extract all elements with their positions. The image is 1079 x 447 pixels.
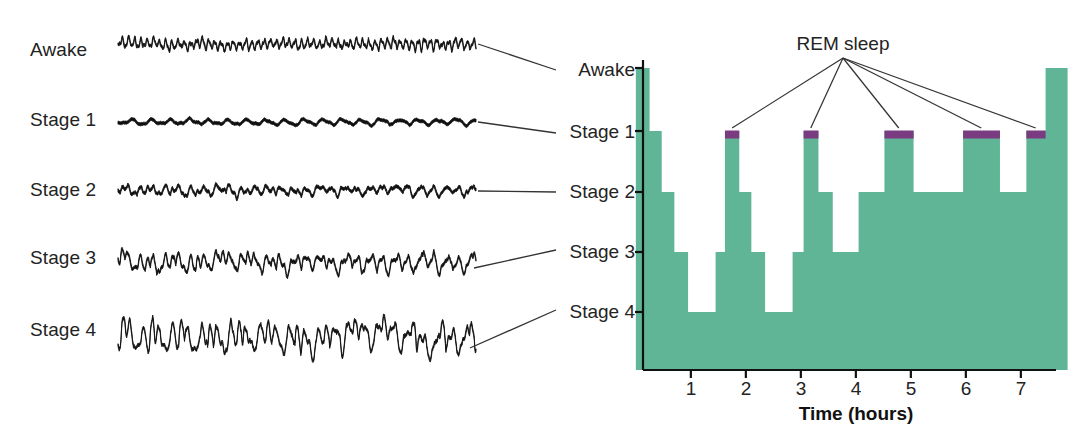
hypnogram-stage-area — [636, 68, 1068, 370]
rem-episode-bar-4 — [963, 131, 1000, 139]
sleep-stage-area — [636, 68, 1068, 370]
rem-leader-line-5 — [843, 58, 1036, 128]
hypnogram-rem-bars — [725, 131, 1046, 139]
rem-episode-bar-2 — [804, 131, 819, 139]
hypnogram-panel: Awake Stage 1 Stage 2 Stage 3 Stage 4 1 … — [0, 0, 1079, 447]
rem-episode-bar-1 — [725, 131, 739, 139]
rem-annotation-lines — [732, 58, 1036, 128]
rem-episode-bar-5 — [1026, 131, 1045, 139]
rem-episode-bar-3 — [884, 131, 913, 139]
rem-leader-line-4 — [843, 58, 981, 128]
hypnogram-plot — [0, 0, 1079, 447]
figure-root: Awake Stage 1 Stage 2 Stage 3 Stage 4 Aw… — [0, 0, 1079, 447]
